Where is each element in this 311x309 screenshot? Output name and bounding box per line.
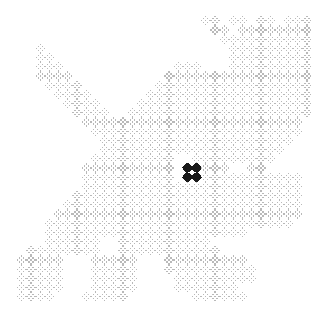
data-point [36,62,45,71]
data-point [91,173,100,182]
data-point [284,182,293,191]
data-point [247,145,256,154]
data-point [146,127,155,136]
data-point [164,182,173,191]
data-point [91,274,100,283]
data-point [284,35,293,44]
data-point [256,90,265,99]
data-point [302,81,311,90]
data-point [256,81,265,90]
data-point [128,265,137,274]
data-point [201,90,210,99]
data-point [247,81,256,90]
data-point [229,292,238,301]
data-point-selected[interactable] [191,172,201,182]
data-point [100,182,109,191]
data-point [275,108,284,117]
data-point [91,127,100,136]
data-point [100,283,109,292]
data-point [275,117,284,126]
data-point [164,136,173,145]
data-point [63,81,72,90]
data-point [174,265,183,274]
data-point [238,182,247,191]
data-point [100,228,109,237]
data-point [91,182,100,191]
data-point [201,292,210,301]
data-point [91,154,100,163]
data-point [210,182,219,191]
data-point [36,246,45,255]
data-point [238,265,247,274]
data-point [91,228,100,237]
data-point [100,274,109,283]
data-point [210,90,219,99]
data-point [192,108,201,117]
data-point [220,127,229,136]
data-point [266,35,275,44]
data-point [266,108,275,117]
data-point [155,99,164,108]
data-point [36,53,45,62]
data-point [266,219,275,228]
data-point [256,191,265,200]
data-point [293,127,302,136]
data-point [54,219,63,228]
data-point [210,71,219,80]
data-point [63,99,72,108]
data-point [229,283,238,292]
data-point [183,209,192,218]
data-point [128,117,137,126]
data-point [128,136,137,145]
data-point [247,90,256,99]
data-point [201,163,210,172]
data-point [256,16,265,25]
data-point [229,219,238,228]
data-point [146,209,155,218]
data-point [164,154,173,163]
data-point [201,283,210,292]
data-point [201,274,210,283]
data-point [174,62,183,71]
data-point [293,182,302,191]
data-point [100,209,109,218]
data-point [192,265,201,274]
data-point [229,53,238,62]
data-point [192,145,201,154]
data-point [284,117,293,126]
data-point [284,99,293,108]
data-point [201,117,210,126]
data-point [155,90,164,99]
data-point [174,200,183,209]
data-point [293,200,302,209]
data-point [201,71,210,80]
data-point [174,71,183,80]
data-point [293,35,302,44]
data-point-selected[interactable] [182,172,192,182]
data-point [192,62,201,71]
data-point [256,53,265,62]
data-point [192,154,201,163]
data-point [275,209,284,218]
data-point [26,283,35,292]
data-point [229,209,238,218]
data-point [155,154,164,163]
data-point-selected[interactable] [182,163,192,173]
data-point [284,81,293,90]
data-point [293,81,302,90]
data-point [284,16,293,25]
data-point [210,200,219,209]
data-point-selected[interactable] [191,163,201,173]
data-point [183,255,192,264]
data-point [146,163,155,172]
data-point [284,191,293,200]
data-point [220,163,229,172]
data-point [63,209,72,218]
data-point [183,62,192,71]
data-point [266,136,275,145]
data-point [45,246,54,255]
data-point [174,246,183,255]
data-point [293,53,302,62]
data-point [284,200,293,209]
series-selected[interactable] [182,163,202,183]
